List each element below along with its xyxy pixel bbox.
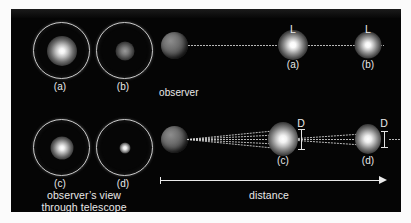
telescope-caption-line1: observer’s view	[47, 189, 121, 201]
observer-sphere-top	[161, 32, 188, 59]
telescope-caption-a: (a)	[54, 81, 67, 93]
telescope-view-a	[33, 22, 90, 79]
telescope-view-b	[96, 22, 153, 79]
diameter-bracket-c	[301, 129, 302, 150]
star-glow-b	[115, 41, 134, 60]
star-glow-c	[50, 136, 73, 159]
star-glow-a	[47, 36, 77, 66]
distance-arrow-head	[379, 176, 387, 184]
telescope-caption-line2: through telescope	[41, 201, 126, 212]
sight-line-bottom-tail	[389, 139, 401, 140]
telescope-view-d	[96, 119, 153, 176]
distance-arrow-line	[160, 180, 379, 181]
observer-sphere-bottom	[161, 126, 188, 153]
star-symbol-a: L	[290, 23, 296, 35]
observer-label: observer	[159, 87, 199, 99]
star-symbol-d: D	[380, 117, 388, 129]
star-c	[268, 122, 298, 156]
star-caption-c: (c)	[277, 155, 289, 167]
star-b	[355, 32, 382, 59]
star-caption-d: (d)	[362, 155, 375, 167]
telescope-view-c	[33, 119, 90, 176]
star-d	[355, 124, 381, 154]
star-symbol-b: L	[365, 23, 371, 35]
distance-label: distance	[249, 189, 289, 201]
panel-sheen	[11, 9, 401, 18]
telescope-caption-b: (b)	[117, 81, 130, 93]
star-caption-b: (b)	[362, 59, 375, 71]
star-symbol-c: D	[297, 117, 305, 129]
diameter-bracket-d	[384, 131, 385, 148]
star-glow-d	[119, 142, 130, 153]
star-caption-a: (a)	[287, 59, 300, 71]
astronomy-figure: (a) (b) (c) (d) observer’s view through …	[0, 0, 411, 223]
diagram-panel: (a) (b) (c) (d) observer’s view through …	[11, 9, 401, 212]
